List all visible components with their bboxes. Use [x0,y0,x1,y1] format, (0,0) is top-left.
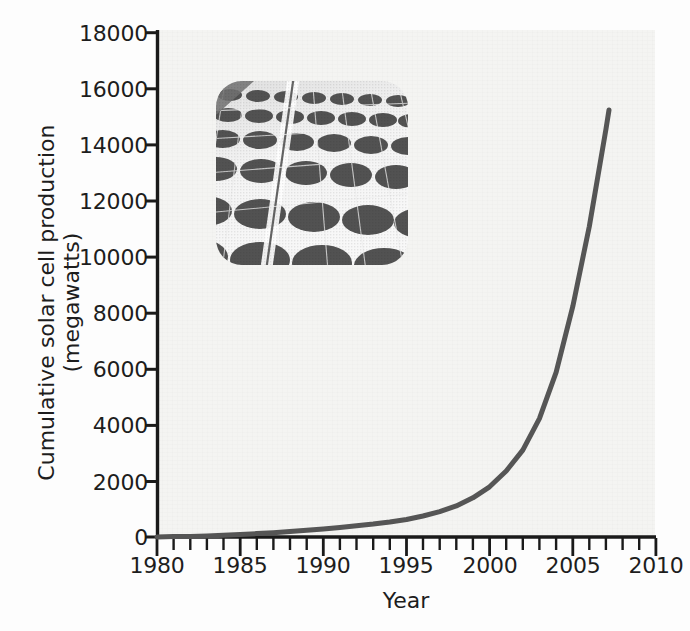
y-tick-label: 0 [134,525,148,550]
x-tick-label: 2000 [462,553,517,578]
y-tick-label: 8000 [93,301,148,326]
x-axis-title: Year [157,588,655,613]
y-tick-label: 18000 [79,20,148,45]
chart-page: 18000 16000 14000 12000 10000 8000 6000 … [0,0,690,631]
y-tick-label: 12000 [79,189,148,214]
y-tick-label: 16000 [79,76,148,101]
x-tick-label: 2005 [545,553,600,578]
y-axis-title-line2: (megawatts) [60,68,85,538]
y-tick-label: 4000 [93,413,148,438]
x-tick-label: 1990 [295,553,350,578]
y-axis-title-line1: Cumulative solar cell production [34,125,59,481]
x-tick-label: 1995 [378,553,433,578]
x-tick-label: 1980 [129,553,184,578]
y-axis-title: Cumulative solar cell production (megawa… [35,68,84,538]
x-tick-label: 1985 [212,553,267,578]
y-tick-label: 10000 [79,245,148,270]
y-tick-label: 14000 [79,132,148,157]
y-tick-label: 2000 [93,469,148,494]
solar-panel-photo-inset [216,81,408,265]
y-tick-label: 6000 [93,357,148,382]
x-tick-label: 2010 [628,553,683,578]
